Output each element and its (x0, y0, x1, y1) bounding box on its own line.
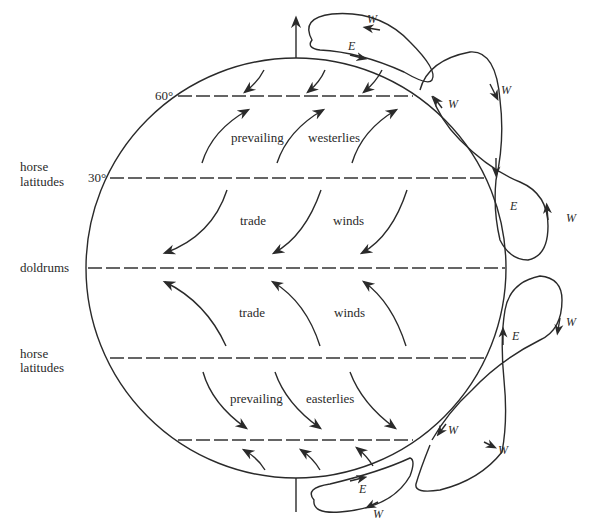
jet-label-lr-w1: W (566, 315, 577, 329)
jet-label-top-w: W (367, 12, 378, 26)
jet-label-lr-w3: W (498, 443, 509, 457)
trade-winds-south-arrows (165, 282, 406, 346)
latitude-60-label: 60° (155, 88, 173, 103)
easterlies-label-2: easterlies (306, 391, 354, 406)
horse-latitudes-north-label-2: latitudes (20, 174, 64, 189)
jet-label-ur-w3: W (566, 211, 577, 225)
doldrums-label: doldrums (20, 260, 69, 275)
wind-circulation-diagram: horse latitudes doldrums horse latitudes… (0, 0, 594, 532)
trade-south-label-1: trade (239, 305, 265, 320)
jet-label-ur-e: E (509, 199, 518, 213)
jet-label-lr-w2: W (448, 423, 459, 437)
jet-label-lr-e: E (511, 329, 520, 343)
jet-label-ur-w2: W (448, 97, 459, 111)
easterlies-label-1: prevailing (230, 391, 283, 406)
trade-south-label-2: winds (334, 305, 365, 320)
trade-winds-north-arrows (165, 190, 407, 253)
polar-south-arrows (244, 448, 373, 470)
latitude-30-label: 30° (88, 170, 106, 185)
horse-latitudes-south-label-1: horse (20, 346, 48, 361)
polar-easterlies-north-arrows (245, 70, 382, 92)
westerlies-label-1: prevailing (231, 130, 284, 145)
north-midlatitude-jet-loop (420, 52, 548, 260)
horse-latitudes-south-label-2: latitudes (20, 360, 64, 375)
trade-north-label-2: winds (333, 213, 364, 228)
jet-label-top-e: E (347, 39, 356, 53)
south-midlatitude-jet-loop (416, 276, 562, 491)
trade-north-label-1: trade (240, 213, 266, 228)
jet-label-ur-w1: W (501, 83, 512, 97)
jet-label-bottom-e: E (358, 482, 367, 496)
westerlies-label-2: westerlies (308, 130, 360, 145)
horse-latitudes-north-label-1: horse (20, 159, 48, 174)
jet-label-bottom-w: W (373, 507, 384, 521)
